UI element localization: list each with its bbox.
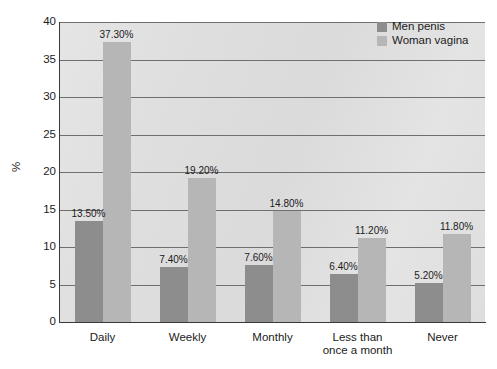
- y-axis-ticks: 0510152025303540: [22, 0, 56, 369]
- bar-woman-1: [188, 178, 216, 322]
- bar-chart-figure: 13.50%37.30%7.40%19.20%7.60%14.80%6.40%1…: [0, 0, 497, 369]
- y-tick-label-5: 5: [30, 279, 56, 291]
- y-axis-title: %: [10, 162, 22, 172]
- x-axis-label-2: Monthly: [252, 331, 292, 344]
- data-label-men-1: 7.40%: [159, 255, 187, 265]
- x-axis-label-3: Less than once a month: [323, 331, 393, 357]
- y-tick-label-10: 10: [30, 241, 56, 253]
- legend-item-1: Woman vagina: [377, 34, 469, 47]
- bar-men-2: [245, 265, 273, 322]
- data-label-woman-2: 14.80%: [270, 199, 304, 209]
- bar-woman-2: [273, 211, 301, 322]
- y-tick-mark-0: [77, 322, 82, 323]
- data-label-men-0: 13.50%: [72, 209, 106, 219]
- y-tick-label-35: 35: [30, 54, 56, 66]
- bar-woman-0: [103, 42, 131, 322]
- bar-men-1: [160, 267, 188, 323]
- legend-label-0: Men penis: [392, 21, 445, 33]
- y-tick-label-25: 25: [30, 129, 56, 141]
- x-axis-line: [59, 322, 486, 323]
- y-tick-label-15: 15: [30, 204, 56, 216]
- bar-men-3: [330, 274, 358, 322]
- bar-woman-3: [358, 238, 386, 322]
- data-label-woman-0: 37.30%: [100, 30, 134, 40]
- legend-label-1: Woman vagina: [392, 35, 469, 47]
- legend: Men penisWoman vagina: [377, 20, 469, 48]
- data-label-woman-1: 19.20%: [185, 166, 219, 176]
- x-axis-label-4: Never: [427, 331, 458, 344]
- data-label-men-3: 6.40%: [329, 262, 357, 272]
- data-label-men-4: 5.20%: [414, 271, 442, 281]
- bar-men-0: [75, 221, 103, 322]
- y-tick-label-40: 40: [30, 16, 56, 28]
- bar-men-4: [415, 283, 443, 322]
- y-tick-label-0: 0: [30, 316, 56, 328]
- y-tick-label-30: 30: [30, 91, 56, 103]
- data-label-men-2: 7.60%: [244, 253, 272, 263]
- y-tick-label-20: 20: [30, 166, 56, 178]
- x-axis-label-1: Weekly: [169, 331, 207, 344]
- x-axis-label-0: Daily: [90, 331, 116, 344]
- legend-swatch-icon-1: [377, 36, 387, 46]
- data-label-woman-3: 11.20%: [355, 226, 388, 236]
- bar-woman-4: [443, 234, 471, 323]
- data-label-woman-4: 11.80%: [440, 222, 473, 232]
- legend-item-0: Men penis: [377, 20, 469, 33]
- legend-swatch-icon-0: [377, 22, 387, 32]
